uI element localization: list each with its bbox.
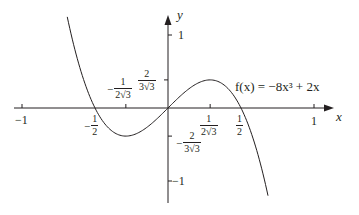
numerator: 1 [119, 77, 126, 88]
x-tick-label-1: 1 [311, 115, 317, 127]
minus-sign: − [84, 120, 90, 132]
x-tick-label-neg1: −1 [15, 114, 28, 126]
x-axis-label: x [336, 110, 342, 123]
numerator: 2 [188, 131, 195, 142]
denominator: 2√3 [200, 125, 218, 137]
minus-sign: − [107, 83, 113, 95]
fraction: 2 3√3 [138, 69, 156, 92]
denominator: 2 [91, 125, 98, 137]
y-tick-label-neg-2-over-3sqrt3: − 2 3√3 [176, 131, 201, 154]
numerator: 1 [91, 114, 98, 125]
y-axis-label: y [177, 8, 183, 21]
numerator: 1 [236, 114, 243, 125]
fraction: 1 2 [236, 114, 243, 137]
denominator: 3√3 [138, 80, 156, 92]
denominator: 2√3 [114, 88, 132, 100]
x-tick-label-inv-2sqrt3: 1 2√3 [200, 114, 218, 137]
x-tick-label-half: 1 2 [236, 114, 243, 137]
y-tick-label-2-over-3sqrt3: 2 3√3 [138, 69, 156, 92]
y-tick-label-1: 1 [178, 29, 184, 41]
x-tick-label-neg-half: − 1 2 [84, 114, 98, 137]
function-label: f(x) = −8x³ + 2x [235, 80, 319, 93]
fraction: 2 3√3 [183, 131, 201, 154]
denominator: 2 [236, 125, 243, 137]
fraction: 1 2√3 [200, 114, 218, 137]
fraction: 1 2√3 [114, 77, 132, 100]
y-tick-label-neg1: −1 [172, 175, 185, 187]
x-tick-label-neg-inv-2sqrt3: − 1 2√3 [107, 77, 132, 100]
x-axis-arrow-icon [324, 105, 334, 112]
denominator: 3√3 [183, 142, 201, 154]
y-axis-arrow-icon [165, 15, 172, 25]
minus-sign: − [176, 137, 182, 149]
numerator: 1 [205, 114, 212, 125]
fraction: 1 2 [91, 114, 98, 137]
numerator: 2 [143, 69, 150, 80]
